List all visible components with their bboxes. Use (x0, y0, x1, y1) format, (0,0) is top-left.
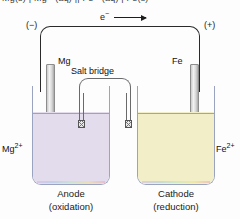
right-solution (138, 112, 214, 184)
right-solution-surface (138, 113, 214, 114)
iron-ion-label: Fe2+ (216, 142, 235, 154)
anode-title: Anode (21, 187, 121, 200)
cell-notation-equation: Mg(s) | Mg²⁺(aq) || Fe²⁺(aq) | Fe(s) (2, 0, 149, 3)
negative-terminal-label: (−) (26, 20, 37, 30)
salt-bridge-left-plug-icon (78, 120, 85, 128)
magnesium-ion-charge: 2+ (15, 142, 23, 149)
electron-flow-label: e− (100, 10, 109, 22)
external-circuit-wire (40, 26, 200, 52)
positive-terminal-label: (+) (204, 20, 215, 30)
cathode-subtitle: (reduction) (126, 200, 226, 213)
left-solution-surface (33, 113, 109, 114)
cell-diagram-figure: Mg(s) | Mg²⁺(aq) || Fe²⁺(aq) | Fe(s) (−)… (0, 0, 240, 219)
magnesium-ion-label: Mg2+ (2, 142, 23, 154)
anode-subtitle: (oxidation) (21, 200, 121, 213)
right-beaker-base-fringe (142, 181, 210, 183)
wire-left-lead (40, 50, 41, 92)
iron-ion-symbol: Fe (216, 144, 227, 154)
salt-bridge-label: Salt bridge (70, 66, 115, 76)
magnesium-electrode-label: Mg (58, 56, 71, 66)
cell-notation-text: Mg(s) | Mg²⁺(aq) || Fe²⁺(aq) | Fe(s) (2, 0, 149, 3)
left-beaker (32, 97, 110, 185)
iron-electrode-label: Fe (172, 56, 183, 66)
cathode-caption: Cathode (reduction) (126, 187, 226, 213)
left-beaker-base-fringe (37, 181, 105, 183)
cathode-title: Cathode (126, 187, 226, 200)
left-solution (33, 112, 109, 184)
magnesium-ion-symbol: Mg (2, 144, 15, 154)
electron-flow-arrow-icon (114, 17, 146, 18)
salt-bridge-arch (79, 78, 131, 94)
anode-caption: Anode (oxidation) (21, 187, 121, 213)
electron-charge: − (105, 10, 109, 17)
right-beaker (137, 97, 215, 185)
wire-right-lead (199, 50, 200, 92)
iron-ion-charge: 2+ (227, 142, 235, 149)
salt-bridge-right-plug-icon (125, 120, 132, 128)
